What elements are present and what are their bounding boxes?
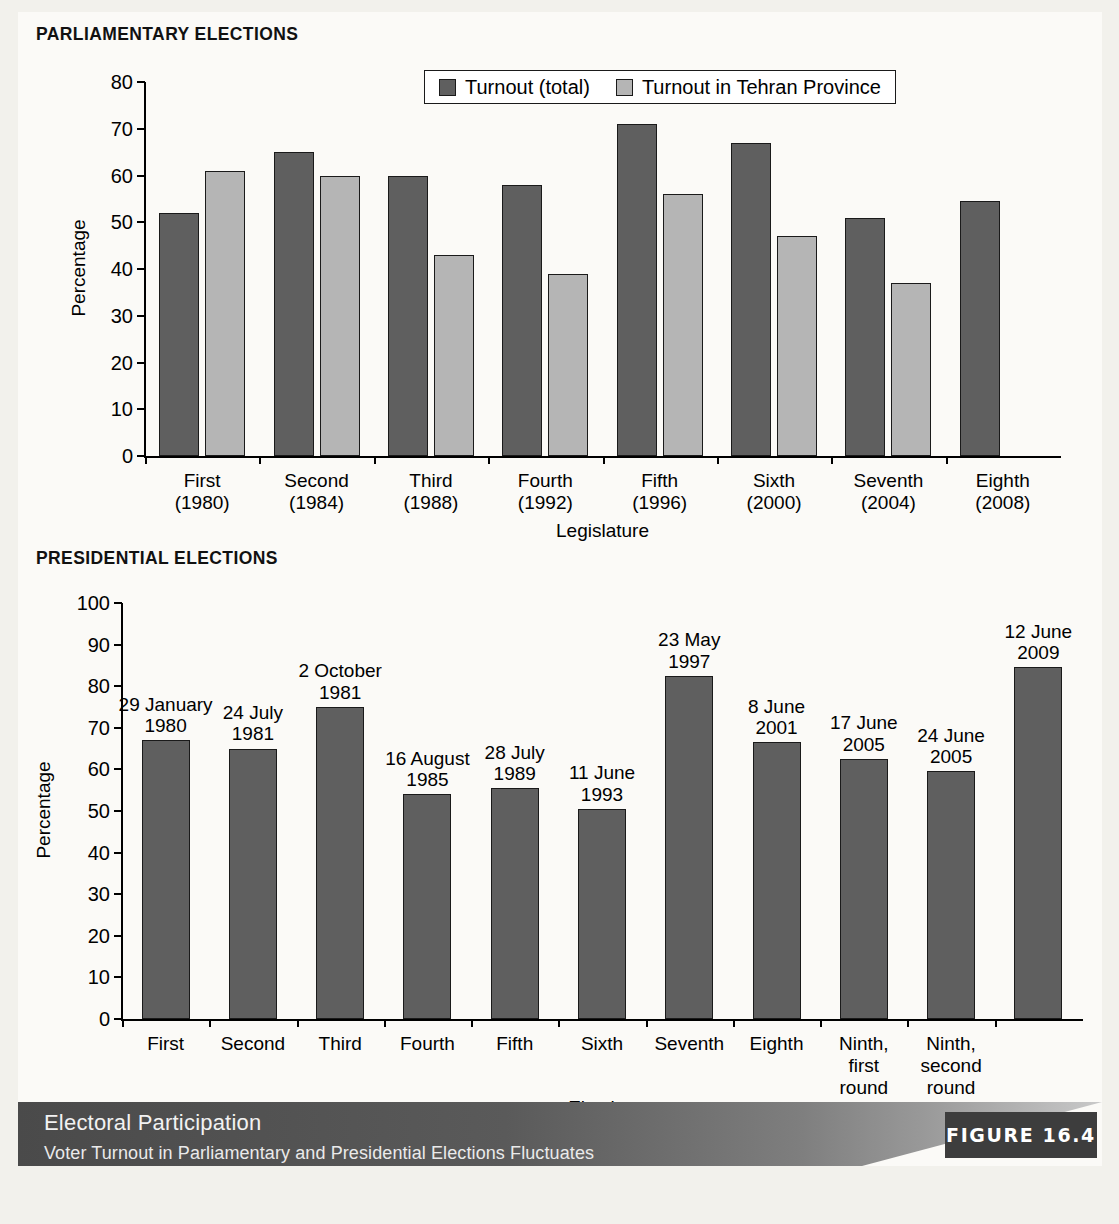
bar-total bbox=[316, 707, 364, 1019]
y-axis-tick bbox=[114, 602, 122, 604]
banner-title: Electoral Participation bbox=[44, 1110, 261, 1136]
y-axis-tick bbox=[114, 976, 122, 978]
x-axis-category-label: Ninth, first round bbox=[839, 1033, 889, 1099]
x-axis-tick bbox=[995, 1019, 997, 1027]
x-axis-tick bbox=[297, 1019, 299, 1027]
y-axis-tick bbox=[114, 935, 122, 937]
y-axis-tick-label: 10 bbox=[58, 967, 110, 987]
x-axis-tick bbox=[122, 1019, 124, 1027]
banner-subtitle: Voter Turnout in Parliamentary and Presi… bbox=[44, 1143, 594, 1164]
y-axis-tick-label: 100 bbox=[58, 593, 110, 613]
bar-total bbox=[403, 794, 451, 1019]
x-axis-tick bbox=[558, 1019, 560, 1027]
y-axis-tick-label: 50 bbox=[58, 801, 110, 821]
y-axis-tick bbox=[114, 644, 122, 646]
presidential-plot-area: 0102030405060708090100PercentageFirst29 … bbox=[122, 603, 1082, 1019]
y-axis-tick-label: 30 bbox=[58, 884, 110, 904]
bar-total bbox=[1014, 667, 1062, 1019]
bar-total bbox=[927, 771, 975, 1019]
bar-total bbox=[491, 788, 539, 1019]
x-axis-tick bbox=[471, 1019, 473, 1027]
bar-date-label: 2 October 1981 bbox=[275, 660, 405, 703]
bar-date-label: 23 May 1997 bbox=[624, 629, 754, 672]
x-axis-category-label: Fifth bbox=[496, 1033, 533, 1055]
presidential-chart: 0102030405060708090100PercentageFirst29 … bbox=[0, 0, 1119, 1100]
y-axis-tick bbox=[114, 893, 122, 895]
y-axis-tick-label: 20 bbox=[58, 926, 110, 946]
x-axis-category-label: Third bbox=[319, 1033, 362, 1055]
x-axis-category-label: Seventh bbox=[654, 1033, 724, 1055]
y-axis-tick-label: 60 bbox=[58, 759, 110, 779]
y-axis-tick-label: 90 bbox=[58, 635, 110, 655]
y-axis-tick bbox=[114, 685, 122, 687]
figure-page: PARLIAMENTARY ELECTIONS 0102030405060708… bbox=[0, 0, 1119, 1224]
bar-total bbox=[665, 676, 713, 1019]
bar-total bbox=[142, 740, 190, 1019]
y-axis-tick bbox=[114, 1018, 122, 1020]
x-axis-category-label: Eighth bbox=[750, 1033, 804, 1055]
x-axis-category-label: Second bbox=[221, 1033, 285, 1055]
bar-date-label: 24 July 1981 bbox=[188, 702, 318, 745]
figure-number-box: FIGURE 16.4 bbox=[945, 1112, 1097, 1158]
bar-date-label: 24 June 2005 bbox=[886, 725, 1016, 768]
x-axis-category-label: First bbox=[147, 1033, 184, 1055]
bar-total bbox=[753, 742, 801, 1019]
page-bottom-strip bbox=[0, 1166, 1119, 1224]
x-axis-tick bbox=[907, 1019, 909, 1027]
x-axis-tick bbox=[820, 1019, 822, 1027]
x-axis-tick bbox=[384, 1019, 386, 1027]
y-axis-tick-label: 40 bbox=[58, 843, 110, 863]
x-axis-tick bbox=[733, 1019, 735, 1027]
x-axis-tick bbox=[209, 1019, 211, 1027]
figure-number-label: FIGURE 16.4 bbox=[946, 1124, 1096, 1146]
x-axis-line bbox=[121, 1019, 1083, 1021]
bar-date-label: 11 June 1993 bbox=[537, 762, 667, 805]
y-axis-title: Percentage bbox=[33, 730, 55, 890]
x-axis-category-label: Sixth bbox=[581, 1033, 623, 1055]
x-axis-category-label: Ninth, second round bbox=[920, 1033, 981, 1099]
y-axis-tick bbox=[114, 810, 122, 812]
x-axis-category-label: Fourth bbox=[400, 1033, 455, 1055]
bar-date-label: 12 June 2009 bbox=[973, 621, 1103, 664]
y-axis-tick bbox=[114, 852, 122, 854]
bar-total bbox=[840, 759, 888, 1019]
x-axis-tick bbox=[646, 1019, 648, 1027]
y-axis-tick bbox=[114, 768, 122, 770]
bar-total bbox=[578, 809, 626, 1019]
bar-total bbox=[229, 749, 277, 1019]
y-axis-tick-label: 0 bbox=[58, 1009, 110, 1029]
